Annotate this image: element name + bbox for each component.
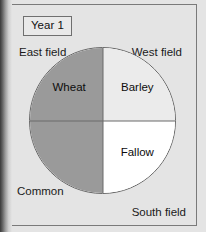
divider-horizontal <box>30 120 175 121</box>
pie-circle: Wheat Barley Fallow <box>29 47 176 194</box>
crop-rotation-diagram: Year 1 East field West field Common Sout… <box>0 0 206 232</box>
slice-label-barley: Barley <box>121 81 154 94</box>
slice-label-wheat: Wheat <box>53 81 86 94</box>
label-south-field: South field <box>132 206 186 219</box>
slice-label-fallow: Fallow <box>121 146 154 159</box>
pie-slice-common <box>30 121 103 194</box>
pie-chart: Wheat Barley Fallow <box>29 47 176 194</box>
year-badge: Year 1 <box>23 16 72 36</box>
